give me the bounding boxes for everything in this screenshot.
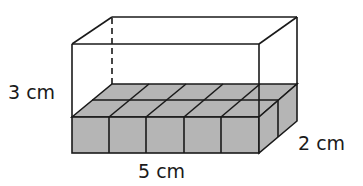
length-label: 5 cm	[138, 160, 185, 182]
height-label: 3 cm	[8, 81, 55, 103]
width-label: 2 cm	[298, 132, 345, 154]
cube-layer	[72, 84, 297, 153]
box-diagram: 3 cm 5 cm 2 cm	[0, 0, 363, 186]
cube-layer-front-face	[72, 117, 259, 153]
